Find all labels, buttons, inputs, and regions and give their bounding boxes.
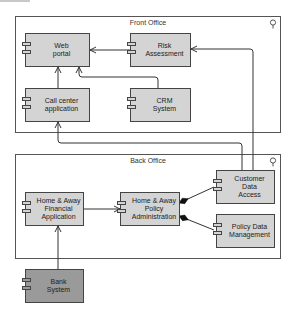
component-ha-policy-admin[interactable]: Home & Away Policy Administration: [120, 192, 180, 226]
component-label: Home & Away Policy Administration: [131, 193, 177, 225]
component-icon-tab: [213, 223, 222, 227]
component-icon-tab: [22, 42, 31, 46]
component-label: Web portal: [36, 34, 87, 66]
component-icon-tab: [22, 50, 31, 54]
component-icon-tab: [127, 50, 136, 54]
component-customer-data-access[interactable]: Customer Data Access: [216, 170, 275, 204]
back-office-title: Back Office: [16, 157, 280, 164]
component-bank-system[interactable]: Bank System: [25, 269, 84, 303]
cropped-header-fragment: [0, 0, 30, 2]
component-icon-tab: [127, 105, 136, 109]
component-label: Bank System: [36, 270, 81, 302]
component-icon-tab: [127, 97, 136, 101]
component-label: Call center application: [36, 89, 87, 121]
component-call-center[interactable]: Call center application: [25, 88, 90, 122]
component-icon-tab: [22, 209, 31, 213]
component-ha-financial[interactable]: Home & Away Financial Application: [25, 192, 84, 226]
component-web-portal[interactable]: Web portal: [25, 33, 90, 67]
component-risk-assessment[interactable]: Risk Assessment: [130, 33, 191, 67]
component-icon-tab: [213, 179, 222, 183]
location-icon: [269, 19, 277, 29]
component-icon-tab: [117, 201, 126, 205]
component-icon-tab: [22, 286, 31, 290]
component-icon-tab: [22, 278, 31, 282]
component-icon-tab: [213, 187, 222, 191]
front-office-title: Front Office: [16, 19, 280, 26]
component-icon-tab: [22, 201, 31, 205]
component-crm-system[interactable]: CRM System: [130, 88, 191, 122]
component-label: Risk Assessment: [141, 34, 188, 66]
component-label: Home & Away Financial Application: [36, 193, 81, 225]
component-icon-tab: [22, 105, 31, 109]
component-label: CRM System: [141, 89, 188, 121]
component-icon-tab: [117, 209, 126, 213]
component-policy-data-mgmt[interactable]: Policy Data Management: [216, 214, 275, 248]
component-icon-tab: [213, 231, 222, 235]
component-label: Policy Data Management: [227, 215, 272, 247]
location-icon: [269, 157, 277, 167]
component-icon-tab: [127, 42, 136, 46]
component-label: Customer Data Access: [227, 171, 272, 203]
component-icon-tab: [22, 97, 31, 101]
